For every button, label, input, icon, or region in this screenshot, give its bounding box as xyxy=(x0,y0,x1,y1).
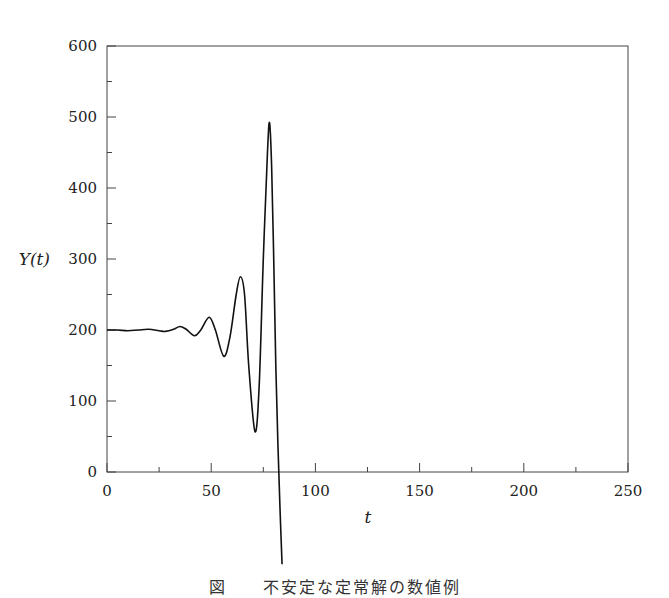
x-tick-label: 150 xyxy=(405,482,434,500)
x-tick-label: 250 xyxy=(614,482,643,500)
y-tick-label: 400 xyxy=(68,179,97,197)
series-line-Y xyxy=(107,122,282,564)
y-tick-label: 500 xyxy=(68,108,97,126)
y-tick-label: 0 xyxy=(87,463,97,481)
y-axis-label: Y(t) xyxy=(19,249,50,269)
y-tick-label: 100 xyxy=(68,392,97,410)
x-tick-label: 50 xyxy=(202,482,221,500)
y-tick-label: 600 xyxy=(68,37,97,55)
axis-ticks xyxy=(107,46,628,472)
x-tick-label: 100 xyxy=(301,482,330,500)
x-tick-labels: 050100150200250 xyxy=(102,482,642,500)
x-axis-label: t xyxy=(365,507,372,527)
y-tick-label: 300 xyxy=(68,250,97,268)
figure-caption: 図 不安定な定常解の数値例 xyxy=(0,574,669,598)
y-tick-label: 200 xyxy=(68,321,97,339)
y-tick-labels: 0100200300400500600 xyxy=(68,37,97,481)
x-tick-label: 0 xyxy=(102,482,112,500)
x-tick-label: 200 xyxy=(509,482,538,500)
plot-frame xyxy=(107,46,628,472)
